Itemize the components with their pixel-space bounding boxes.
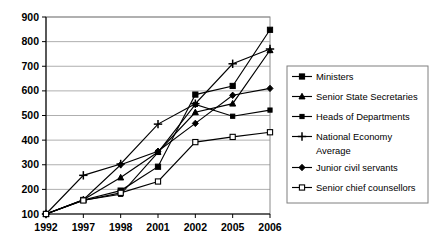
data-point-open-square xyxy=(299,185,304,190)
y-tick-label: 900 xyxy=(21,11,39,23)
chart-canvas: 1002003004005006007008009001992199719982… xyxy=(0,0,445,247)
data-point-filled-square xyxy=(230,83,235,88)
x-tick-label: 2005 xyxy=(221,221,245,233)
data-point-small-filled-square xyxy=(268,108,272,112)
series-senior-state-secretaries xyxy=(43,47,273,216)
legend-label: Senior chief counsellors xyxy=(316,182,416,193)
legend-label: National Economy xyxy=(316,131,392,142)
data-point-open-square xyxy=(155,179,160,184)
series-national-economy-average xyxy=(42,45,274,218)
y-tick-label: 300 xyxy=(21,158,39,170)
legend-label: Ministers xyxy=(316,71,354,82)
data-point-filled-square xyxy=(193,92,198,97)
legend-label: Senior State Secretaries xyxy=(316,91,418,102)
y-tick-label: 200 xyxy=(21,183,39,195)
data-point-open-square xyxy=(81,198,86,203)
legend-label: Heads of Departments xyxy=(316,111,410,122)
x-tick-label: 2002 xyxy=(184,221,208,233)
data-point-small-filled-square xyxy=(231,114,235,118)
data-point-filled-square xyxy=(155,164,160,169)
x-tick-label: 1992 xyxy=(34,221,58,233)
data-point-open-square xyxy=(118,190,123,195)
data-point-filled-square xyxy=(267,27,272,32)
series-junior-civil-servants xyxy=(43,85,273,217)
data-point-filled-triangle xyxy=(118,174,124,180)
series-senior-chief-counsellors xyxy=(43,130,272,217)
y-tick-label: 600 xyxy=(21,84,39,96)
data-point-filled-square xyxy=(299,74,304,79)
legend-item[interactable]: Average xyxy=(316,145,351,156)
y-tick-label: 400 xyxy=(21,134,39,146)
chart-legend: MinistersSenior State SecretariesHeads o… xyxy=(287,66,428,203)
line-chart: 1002003004005006007008009001992199719982… xyxy=(0,0,445,247)
x-tick-label: 1998 xyxy=(109,221,133,233)
y-tick-label: 100 xyxy=(21,208,39,220)
data-point-open-square xyxy=(230,134,235,139)
x-tick-label: 2006 xyxy=(258,221,282,233)
y-tick-label: 800 xyxy=(21,35,39,47)
x-tick-label: 2001 xyxy=(146,221,170,233)
legend-label: Average xyxy=(316,145,351,156)
data-point-small-filled-square xyxy=(300,114,304,118)
series-heads-of-departments xyxy=(44,102,272,216)
x-tick-label: 1997 xyxy=(72,221,96,233)
series-line xyxy=(46,132,270,214)
data-point-open-square xyxy=(43,211,48,216)
data-point-open-square xyxy=(267,130,272,135)
data-point-open-square xyxy=(193,139,198,144)
y-tick-label: 500 xyxy=(21,109,39,121)
y-tick-label: 700 xyxy=(21,60,39,72)
legend-label: Junior civil servants xyxy=(316,162,398,173)
